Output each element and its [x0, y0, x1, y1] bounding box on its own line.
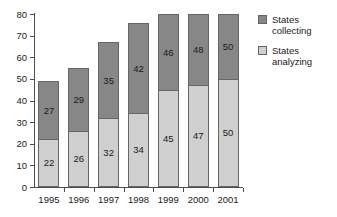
- bar-segment-analyzing[interactable]: 32: [98, 118, 119, 187]
- y-axis-tick-label: 10: [16, 161, 27, 171]
- bar-value-label: 26: [73, 154, 84, 164]
- legend-label: States collecting: [272, 14, 312, 36]
- y-axis-tick-label: 80: [16, 10, 27, 20]
- bar-value-label: 42: [133, 64, 144, 74]
- legend-entry[interactable]: States collecting: [258, 14, 336, 36]
- bar-group[interactable]: 2926: [68, 68, 89, 187]
- x-axis-tick: [64, 188, 65, 192]
- x-axis-tick: [94, 188, 95, 192]
- bar-value-label: 48: [193, 45, 204, 55]
- legend-swatch-icon: [258, 46, 267, 55]
- bar-segment-collecting[interactable]: 42: [128, 23, 149, 114]
- x-axis-line: [34, 187, 243, 188]
- bar-value-label: 35: [103, 76, 114, 86]
- bar-segment-collecting[interactable]: 50: [218, 14, 239, 79]
- y-axis-tick-label: 70: [16, 31, 27, 41]
- bar-value-label: 32: [103, 148, 114, 158]
- bar-value-label: 45: [163, 134, 174, 144]
- bar-segment-analyzing[interactable]: 22: [38, 139, 59, 187]
- bar-segment-collecting[interactable]: 48: [188, 14, 209, 85]
- x-axis-tick: [183, 188, 184, 192]
- bar-value-label: 47: [193, 131, 204, 141]
- bar-value-label: 34: [133, 145, 144, 155]
- chart-legend: States collectingStates analyzing: [258, 14, 336, 76]
- x-axis-tick: [243, 188, 244, 192]
- bar-segment-collecting[interactable]: 46: [158, 14, 179, 90]
- legend-swatch-icon: [258, 15, 267, 24]
- y-axis-tick-label: 60: [16, 53, 27, 63]
- bar-segment-collecting[interactable]: 35: [98, 42, 119, 118]
- x-axis-category-label: 2001: [206, 195, 250, 205]
- y-axis-tick-label: 20: [16, 140, 27, 150]
- bar-value-label: 22: [44, 158, 55, 168]
- x-axis-tick: [213, 188, 214, 192]
- legend-entry[interactable]: States analyzing: [258, 45, 336, 67]
- bar-value-label: 27: [44, 106, 55, 116]
- plot-area: 2722292635324234464548475050: [34, 14, 243, 187]
- bar-group[interactable]: 2722: [38, 81, 59, 187]
- bar-segment-collecting[interactable]: 29: [68, 68, 89, 131]
- y-axis-tick-label: 40: [16, 96, 27, 106]
- bar-group[interactable]: 4645: [158, 14, 179, 187]
- bar-value-label: 50: [223, 128, 234, 138]
- bar-segment-analyzing[interactable]: 45: [158, 90, 179, 187]
- bar-segment-collecting[interactable]: 27: [38, 81, 59, 139]
- bar-value-label: 50: [223, 42, 234, 52]
- bar-segment-analyzing[interactable]: 47: [188, 85, 209, 187]
- legend-label: States analyzing: [272, 45, 312, 67]
- y-axis-tick-label: 50: [16, 75, 27, 85]
- bar-group[interactable]: 4234: [128, 23, 149, 187]
- y-axis-tick-label: 0: [22, 183, 27, 193]
- bar-segment-analyzing[interactable]: 50: [218, 79, 239, 187]
- x-axis-tick: [153, 188, 154, 192]
- bar-value-label: 29: [73, 95, 84, 105]
- bar-value-label: 46: [163, 48, 174, 58]
- y-axis-tick: 0: [30, 187, 35, 188]
- bar-segment-analyzing[interactable]: 34: [128, 113, 149, 187]
- bar-group[interactable]: 3532: [98, 42, 119, 187]
- bar-segment-analyzing[interactable]: 26: [68, 131, 89, 187]
- bar-group[interactable]: 5050: [218, 14, 239, 187]
- bar-group[interactable]: 4847: [188, 14, 209, 187]
- x-axis-tick: [124, 188, 125, 192]
- stacked-bar-chart: 01020304050607080 2722292635324234464548…: [0, 0, 337, 217]
- y-axis-tick-label: 30: [16, 118, 27, 128]
